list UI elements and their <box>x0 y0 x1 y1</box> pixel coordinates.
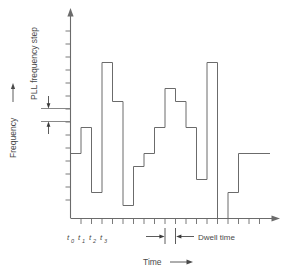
x-tick-label-t0: t 0 <box>67 233 75 244</box>
pll-step-upper-arrow-head <box>47 103 51 108</box>
x-tick-label-t3: t 3 <box>100 233 108 244</box>
x-axis-arrowhead <box>272 215 281 221</box>
x-tick-label-base: t <box>100 233 103 242</box>
pll-frequency-step-label: PLL frequency step <box>29 27 39 100</box>
frequency-hopping-figure: Frequency PLL frequency step <box>0 0 291 272</box>
pll-frequency-step-annotation: PLL frequency step <box>29 27 70 134</box>
x-tick-labels-group: t 0 t 1 t 2 t 3 <box>67 233 108 244</box>
x-tick-label-subscript: 1 <box>82 238 85 244</box>
y-axis-label: Frequency <box>8 117 18 158</box>
y-axis-label-group: Frequency <box>8 83 18 158</box>
y-axis-group <box>66 8 74 218</box>
y-axis-arrowhead <box>67 8 73 17</box>
x-axis-label-group: Time <box>143 257 193 267</box>
x-tick-label-t2: t 2 <box>89 233 96 244</box>
figure-svg: Frequency PLL frequency step <box>0 0 291 272</box>
x-tick-label-t1: t 1 <box>78 233 85 244</box>
x-tick-label-subscript: 2 <box>92 238 96 244</box>
x-tick-label-subscript: 3 <box>104 238 108 244</box>
dwell-time-label: Dwell time <box>198 233 235 242</box>
dwell-right-arrow-head <box>176 235 181 239</box>
x-tick-label-subscript: 0 <box>71 238 75 244</box>
dwell-time-annotation: Dwell time <box>146 228 235 244</box>
dwell-left-arrow-head <box>159 235 164 239</box>
x-tick-label-base: t <box>89 233 92 242</box>
frequency-hopping-waveform <box>71 63 271 219</box>
y-axis-label-arrow-head <box>11 83 15 89</box>
x-axis-label: Time <box>143 257 162 267</box>
pll-step-lower-arrow-head <box>47 122 51 127</box>
x-axis-group <box>71 215 281 224</box>
x-tick-label-base: t <box>67 233 70 242</box>
x-axis-label-arrow-head <box>187 260 194 265</box>
x-tick-label-base: t <box>78 233 81 242</box>
